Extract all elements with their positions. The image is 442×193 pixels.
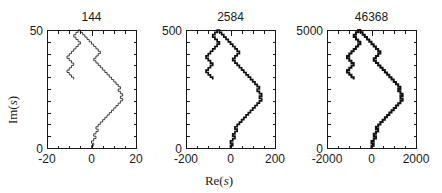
x-tick-label: 20 (129, 152, 143, 166)
y-tick-label-max: 50 (30, 24, 44, 38)
y-axis-label: Im(s) (5, 96, 20, 124)
y-axis-label-suffix: ) (5, 96, 20, 100)
x-tick-label: 0 (227, 152, 234, 166)
y-axis-label-prefix: Im( (5, 105, 20, 124)
x-tick-label: -200 (174, 152, 198, 166)
x-axis-label-suffix: ) (229, 173, 233, 188)
panel-title: 144 (81, 10, 101, 24)
x-tick-label: 2000 (403, 152, 430, 166)
x-tick-label: -20 (38, 152, 56, 166)
svg-text:Re(s): Re(s) (205, 173, 233, 188)
svg-text:Im(s): Im(s) (5, 96, 20, 124)
y-tick-label-max: 500 (162, 24, 182, 38)
x-axis-label: Re(s) (205, 173, 233, 188)
x-tick-label: 0 (368, 152, 375, 166)
y-tick-label-max: 5000 (296, 24, 323, 38)
panel-title: 46368 (355, 10, 389, 24)
x-tick-label: -2000 (312, 152, 343, 166)
figure-background (0, 0, 442, 193)
x-tick-label: 200 (265, 152, 285, 166)
x-tick-label: 0 (88, 152, 95, 166)
x-axis-label-prefix: Re( (205, 173, 224, 188)
self-similar-random-walk-figure: Im(s) Re(s) 144500-2002025845000-2000200… (0, 0, 442, 193)
panel-title: 2584 (217, 10, 244, 24)
